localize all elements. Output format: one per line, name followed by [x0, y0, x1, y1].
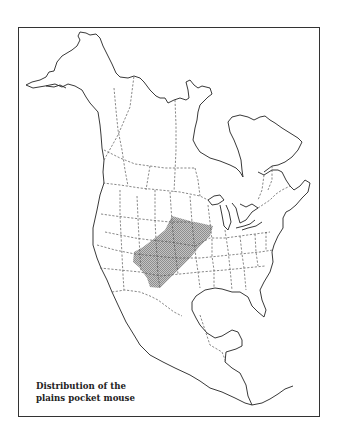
great-lakes: [208, 195, 262, 230]
species-range-area: [133, 216, 213, 288]
north-america-map: [0, 0, 338, 442]
map-caption: Distribution of the plains pocket mouse: [36, 381, 135, 404]
caption-line-1: Distribution of the: [36, 381, 135, 393]
coastline-arctic: [26, 32, 302, 177]
political-borders: [97, 76, 290, 362]
caption-line-2: plains pocket mouse: [36, 393, 135, 405]
